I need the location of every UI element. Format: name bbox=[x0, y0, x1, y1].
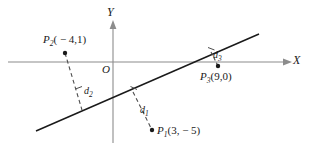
y-axis bbox=[110, 20, 117, 143]
point-label-p3-coords: (9,0) bbox=[210, 70, 231, 82]
point-label-p3: P3(9,0) bbox=[200, 71, 232, 85]
point-label-p3-name: P bbox=[200, 70, 207, 82]
right-angle-tick-d2 bbox=[76, 87, 83, 90]
origin-label: O bbox=[102, 64, 110, 75]
distance-label-d3: d3 bbox=[213, 50, 222, 63]
geometry-figure: X Y O P2( − 4,1) P1(3, − 5) P3(9,0) d2 d… bbox=[0, 0, 311, 152]
point-marker-p3 bbox=[216, 64, 220, 68]
x-axis-arrowhead bbox=[283, 59, 292, 66]
x-axis bbox=[8, 59, 292, 66]
point-label-p2-coords: ( − 4,1) bbox=[53, 33, 86, 45]
point-label-p2: P2( − 4,1) bbox=[43, 34, 86, 48]
point-marker-p1 bbox=[150, 128, 154, 132]
distance-label-d1-subscript: 1 bbox=[145, 109, 149, 118]
distance-label-d1: d1 bbox=[140, 105, 149, 118]
point-label-p1: P1(3, − 5) bbox=[157, 125, 200, 139]
x-axis-label: X bbox=[293, 54, 300, 66]
distance-label-d2: d2 bbox=[84, 86, 93, 99]
y-axis-arrowhead bbox=[110, 20, 117, 29]
point-label-p2-name: P bbox=[43, 33, 50, 45]
point-marker-p2 bbox=[63, 51, 67, 55]
y-axis-label: Y bbox=[107, 6, 114, 18]
point-label-p1-coords: (3, − 5) bbox=[167, 124, 200, 136]
diagram-canvas bbox=[0, 0, 311, 152]
distance-label-d2-subscript: 2 bbox=[89, 90, 93, 99]
point-label-p1-name: P bbox=[157, 124, 164, 136]
distance-label-d3-subscript: 3 bbox=[218, 54, 222, 63]
distance-segment-d2 bbox=[63, 51, 82, 110]
